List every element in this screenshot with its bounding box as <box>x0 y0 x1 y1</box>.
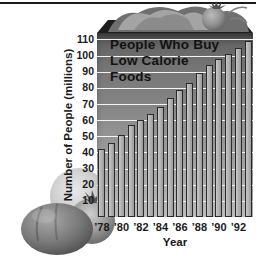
bar <box>147 114 154 217</box>
title-line-1: People Who Buy <box>110 37 219 53</box>
bar <box>128 125 135 217</box>
y-tick-label: 110 <box>58 33 94 45</box>
y-tick-label: 100 <box>58 49 94 61</box>
title-line-3: Foods <box>110 69 219 85</box>
y-tick-label: 90 <box>58 65 94 77</box>
bar <box>157 107 164 217</box>
x-tick-label: ’92 <box>225 221 251 233</box>
figure: People Who Buy Low Calorie Foods Number … <box>0 0 270 261</box>
y-tick-label: 50 <box>58 130 94 142</box>
bar <box>98 149 105 217</box>
bar <box>167 98 174 217</box>
lettuce-and-tomato-icon <box>100 0 252 34</box>
title-line-2: Low Calorie <box>110 53 219 69</box>
bar <box>186 83 193 217</box>
x-axis-label: Year <box>97 236 253 248</box>
bar <box>235 48 242 217</box>
bar <box>196 73 203 217</box>
y-tick-label: 80 <box>58 81 94 93</box>
bar <box>245 41 252 217</box>
y-tick-label: 40 <box>58 146 94 158</box>
y-tick-label: 60 <box>58 114 94 126</box>
y-tick-label: 70 <box>58 98 94 110</box>
y-tick-label: 20 <box>58 178 94 190</box>
chart-title: People Who Buy Low Calorie Foods <box>110 37 219 85</box>
plot-area: People Who Buy Low Calorie Foods <box>97 33 253 217</box>
bar <box>225 54 232 217</box>
bar <box>137 120 144 217</box>
bar <box>206 65 213 217</box>
bar <box>108 143 115 217</box>
y-tick-label: 30 <box>58 162 94 174</box>
bar <box>118 135 125 217</box>
bar <box>176 90 183 218</box>
y-tick-label: 10 <box>58 194 94 206</box>
